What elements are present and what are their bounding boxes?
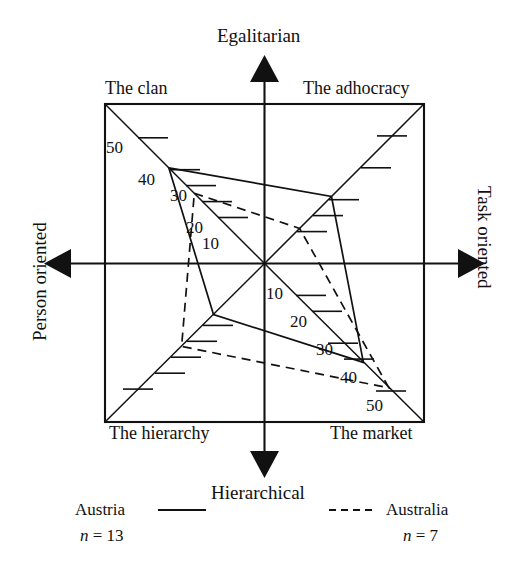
legend-n-symbol-australia: n [403,526,412,545]
legend-n-austria: n = 13 [80,527,124,544]
quadrant-label-hierarchy: The hierarchy [109,424,209,442]
tick-label-clan-20: 20 [186,219,203,236]
tick-label-market-50: 50 [366,397,383,414]
legend-label-australia: Australia [386,501,448,518]
legend-n-value-austria: = 13 [93,526,124,545]
ticks-adhocracy [297,136,407,232]
axis-label-task-oriented: Task oriented [475,186,494,289]
tick-label-market-10: 10 [266,285,283,302]
legend-n-value-australia: = 7 [416,526,438,545]
arrow-up-icon [250,55,279,82]
tick-label-clan-50: 50 [106,139,123,156]
tick-label-clan-40: 40 [138,171,155,188]
legend-n-australia: n = 7 [403,527,438,544]
diagonal-hierarchy [105,264,265,423]
axis-label-egalitarian: Egalitarian [217,26,300,45]
quadrant-label-clan: The clan [105,79,167,97]
tick-label-market-30: 30 [316,341,333,358]
tick-label-market-20: 20 [290,313,307,330]
quadrant-label-adhocracy: The adhocracy [303,79,409,97]
legend-n-symbol-austria: n [80,526,89,545]
tick-label-clan-10: 10 [202,235,219,252]
tick-label-clan-30: 30 [170,187,187,204]
axis-label-hierarchical: Hierarchical [211,483,305,502]
arrow-down-icon [250,451,279,478]
competing-values-chart: Egalitarian Hierarchical Person oriented… [0,0,524,567]
axis-label-person-oriented: Person oriented [30,222,49,341]
quadrant-label-market: The market [330,424,412,442]
diagonal-clan [105,104,265,264]
diagonal-adhocracy [265,104,425,264]
legend-label-austria: Austria [75,501,125,518]
tick-label-market-40: 40 [340,369,357,386]
ticks-hierarchy [123,325,233,389]
